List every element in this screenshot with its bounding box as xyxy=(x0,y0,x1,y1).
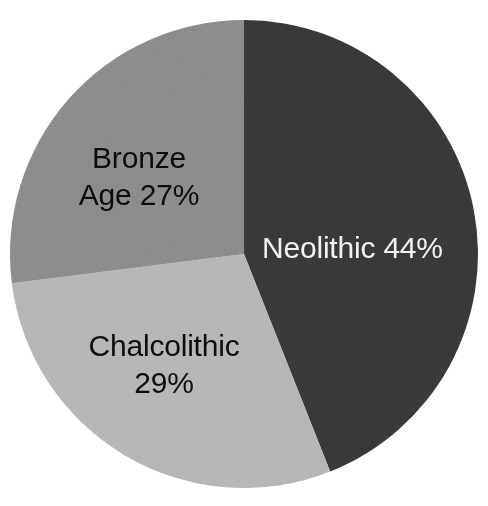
pie-chart-canvas xyxy=(0,0,488,506)
pie-slice-bronze-age xyxy=(10,20,244,283)
pie-slices xyxy=(10,20,478,488)
pie-chart: Neolithic 44% Bronze Age 27% Chalcolithi… xyxy=(0,0,488,506)
